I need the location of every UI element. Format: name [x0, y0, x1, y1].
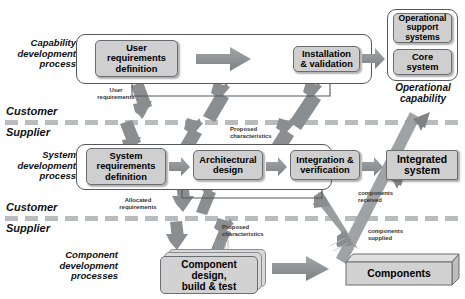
flow-label-components-supplied: components supplied: [368, 228, 428, 241]
arrow-user-requirements-to-installation: [196, 47, 252, 71]
node-integration-verification[interactable]: Integration & verification: [290, 150, 360, 180]
node-component-design-build-test-stack: Component design, build & test: [160, 248, 266, 294]
node-core-system[interactable]: Core system: [393, 49, 452, 75]
flow-label-allocated-requirements: Allocated requirements: [110, 197, 166, 210]
arrow-component-design-to-components: [272, 256, 330, 282]
arrow-allocated-requirements-down-lower: [166, 221, 188, 250]
flow-label-proposed-characteristics-lower: Proposed characteristics: [222, 224, 282, 237]
node-components[interactable]: Components: [346, 262, 452, 285]
node-component-design-build-test[interactable]: Component design, build & test: [160, 256, 258, 294]
node-components-stack: Components: [340, 252, 460, 286]
arrow-architectural-design-to-integration-verification: [266, 157, 288, 177]
boundary-upper-customer-label: Customer: [6, 105, 78, 117]
node-integrated-system[interactable]: Integrated system: [386, 150, 458, 180]
boundary-lower-customer-label: Customer: [6, 201, 78, 213]
node-user-requirements-definition[interactable]: User requirements definition: [95, 40, 178, 77]
lane-label-capability-development-process: Capability development process: [6, 38, 76, 70]
arrow-system-requirements-to-architectural-design: [169, 157, 191, 177]
arrow-integration-to-integrated-system: [362, 157, 384, 177]
node-system-requirements-definition[interactable]: System requirements definition: [86, 148, 166, 185]
boundary-lower-supplier-label: Supplier: [6, 222, 78, 234]
node-installation-validation[interactable]: Installation & validation: [293, 46, 360, 72]
diagram-canvas: Capability development process System de…: [0, 0, 465, 299]
node-operational-support-systems[interactable]: Operational support systems: [393, 13, 452, 43]
arrow-proposed-characteristics-up-upper: [203, 82, 230, 122]
flow-label-user-requirements: User requirements: [92, 87, 140, 100]
flow-label-components-received: components received: [358, 190, 418, 203]
node-architectural-design[interactable]: Architectural design: [193, 150, 263, 180]
boundary-upper-supplier-label: Supplier: [6, 126, 78, 138]
lane-label-component-development-processes: Component development processes: [28, 250, 118, 282]
caption-operational-capability: Operational capability: [384, 82, 462, 104]
flow-label-proposed-characteristics-upper: Proposed characteristics: [230, 126, 290, 139]
lane-label-system-development-process: System development process: [6, 150, 76, 182]
arrow-installation-to-operational-capability: [362, 48, 386, 70]
